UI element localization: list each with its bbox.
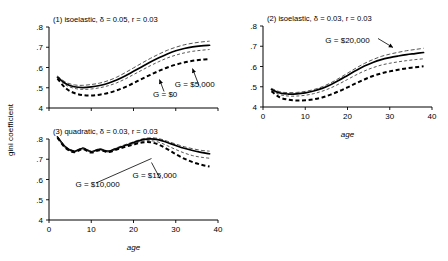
x-tick-label: 40 [428,112,437,121]
panel-2: (2) isoelastic, δ = 0.03, r = 0.034.5.6.… [250,14,437,139]
chart-svg: (1) isoelastic, δ = 0.05, r = 0.034.5.6.… [0,0,448,261]
y-tick-label: .7 [250,42,257,51]
annotation-label: G = $15,000 [132,171,177,180]
y-tick-label: .6 [36,176,43,185]
panel-3: (3) quadratic, δ = 0.03, r = 0.034.5.6.7… [36,127,223,252]
y-tick-label: .5 [36,84,43,93]
panel-2-title: (2) isoelastic, δ = 0.03, r = 0.03 [267,14,372,23]
figure-container: gini coefficient (1) isoelastic, δ = 0.0… [0,0,448,261]
x-tick-label: 20 [129,225,138,234]
y-axis-label: gini coefficient [2,70,18,190]
y-tick-label: .5 [250,83,257,92]
y-tick-label: .8 [36,135,43,144]
annotation-label: G = $5,000 [175,80,215,89]
x-tick-label: 40 [214,225,223,234]
series-thin-dashed [271,59,423,96]
y-tick-label: .5 [36,196,43,205]
x-tick-label: 10 [87,225,96,234]
y-tick-label: .8 [250,22,257,31]
y-tick-label: .6 [250,63,257,72]
x-tick-label: 10 [301,112,310,121]
y-tick-label: 4 [253,103,258,112]
panel-1: (1) isoelastic, δ = 0.05, r = 0.034.5.6.… [36,15,218,113]
y-tick-label: 4 [39,216,44,225]
series-solid-thick [57,137,209,154]
annotation-label: G = $0 [153,90,178,99]
panel-1-title: (1) isoelastic, δ = 0.05, r = 0.03 [53,15,158,24]
y-tick-label: .6 [36,64,43,73]
panel-3-title: (3) quadratic, δ = 0.03, r = 0.03 [53,127,158,136]
y-tick-label: .7 [36,155,43,164]
y-axis-label-text: gini coefficient [6,104,15,156]
series-heavy-dashed [271,66,423,100]
x-tick-label: 0 [47,225,52,234]
annotation-label: G = $20,000 [325,36,370,45]
panel-2-x-axis-label: age [341,130,355,139]
panel-3-x-axis-label: age [127,243,141,252]
annotation-label: G = $10,000 [75,180,120,189]
x-tick-label: 0 [261,112,266,121]
x-tick-label: 30 [171,225,180,234]
series-heavy-dashed [57,59,209,95]
x-tick-label: 30 [385,112,394,121]
series-thin-dashed [57,137,209,158]
y-tick-label: 4 [39,104,44,113]
y-tick-label: .8 [36,23,43,32]
y-tick-label: .7 [36,43,43,52]
x-tick-label: 20 [343,112,352,121]
